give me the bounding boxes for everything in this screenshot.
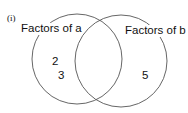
set-b-label: Factors of b bbox=[124, 25, 187, 37]
set-b-only-value: 5 bbox=[142, 70, 148, 82]
set-a-only-value: 3 bbox=[58, 70, 64, 82]
set-a-only-value: 2 bbox=[52, 56, 58, 68]
set-a-label: Factors of a bbox=[20, 23, 83, 35]
venn-diagram bbox=[0, 0, 188, 113]
part-label: (i) bbox=[7, 14, 16, 23]
